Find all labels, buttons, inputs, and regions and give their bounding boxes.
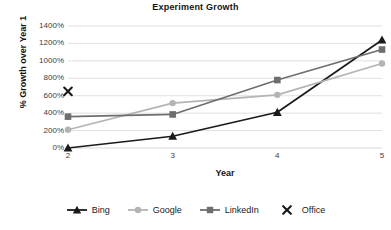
y-tick-label: 400% (22, 109, 64, 117)
data-point-square (169, 111, 176, 118)
chart-container: Experiment Growth % Growth over Year 1 0… (0, 0, 391, 230)
series-bing (64, 36, 387, 152)
data-point-circle (65, 127, 71, 133)
y-tick-label: 1400% (22, 22, 64, 30)
series-line (68, 40, 382, 148)
y-axis-tick-labels: 0%200%400%600%800%1000%1200%1400% (18, 26, 64, 148)
data-point-circle (135, 207, 141, 213)
legend-marker-circle-icon (127, 205, 149, 215)
legend-marker-triangle-icon (66, 205, 88, 215)
data-point-x (283, 206, 291, 214)
x-tick-label: 4 (262, 151, 292, 160)
x-axis-title: Year (60, 168, 390, 178)
legend-item-google[interactable]: Google (127, 205, 182, 215)
series-office (64, 88, 72, 96)
data-point-square (379, 46, 386, 53)
chart-title: Experiment Growth (0, 2, 391, 12)
x-axis-tick-labels: 2345 (68, 151, 382, 163)
legend-marker-x-icon (276, 205, 298, 215)
chart-legend: BingGoogleLinkedInOffice (0, 205, 391, 215)
data-point-triangle (378, 36, 387, 44)
x-tick-label: 3 (158, 151, 188, 160)
y-tick-label: 800% (22, 74, 64, 82)
legend-item-bing[interactable]: Bing (66, 205, 110, 215)
data-point-square (207, 207, 213, 213)
data-point-x (64, 88, 72, 96)
legend-label: LinkedIn (225, 205, 259, 215)
legend-marker-square-icon (199, 205, 221, 215)
plot-svg (68, 26, 382, 148)
legend-label: Office (302, 205, 325, 215)
data-point-square (65, 113, 72, 120)
data-point-square (274, 77, 281, 84)
legend-item-office[interactable]: Office (276, 205, 325, 215)
data-point-circle (379, 60, 385, 66)
y-tick-label: 600% (22, 92, 64, 100)
legend-item-linkedin[interactable]: LinkedIn (199, 205, 259, 215)
plot-area (68, 26, 382, 148)
x-tick-label: 5 (367, 151, 391, 160)
x-tick-label: 2 (53, 151, 83, 160)
y-tick-label: 200% (22, 127, 64, 135)
data-point-circle (274, 92, 280, 98)
series-line (68, 50, 382, 117)
data-point-circle (169, 100, 175, 106)
data-point-triangle (273, 108, 282, 116)
series-linkedin (65, 46, 386, 120)
y-tick-label: 1000% (22, 57, 64, 65)
y-tick-label: 1200% (22, 39, 64, 47)
legend-label: Google (153, 205, 182, 215)
legend-label: Bing (92, 205, 110, 215)
